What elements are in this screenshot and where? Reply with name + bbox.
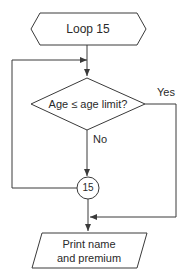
decision-label: Age ≤ age limit? bbox=[49, 99, 128, 110]
connector-label: 15 bbox=[82, 183, 93, 193]
no-label: No bbox=[93, 134, 107, 145]
loop-start-label: Loop 15 bbox=[66, 23, 109, 35]
loop-back-line bbox=[12, 60, 77, 188]
output-label-line1: Print name bbox=[62, 239, 115, 250]
output-label-line2: and premium bbox=[57, 253, 121, 264]
yes-path-line bbox=[90, 104, 176, 217]
yes-label: Yes bbox=[157, 87, 175, 98]
